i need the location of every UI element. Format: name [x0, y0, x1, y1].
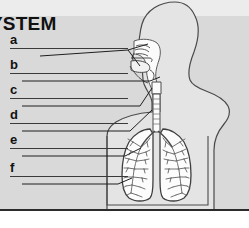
answer-line-d[interactable]	[10, 123, 128, 124]
question-letter-f: f	[10, 160, 14, 175]
trachea	[153, 94, 160, 132]
question-letter-c: c	[10, 82, 17, 97]
question-letter-e: e	[10, 132, 17, 147]
answer-line-c[interactable]	[10, 98, 128, 99]
respiratory-system-diagram	[0, 0, 249, 211]
answer-line-b[interactable]	[10, 73, 128, 74]
worksheet-panel: YSTEM	[0, 0, 249, 211]
question-letter-a: a	[10, 32, 17, 47]
question-letter-d: d	[10, 107, 18, 122]
answer-line-e[interactable]	[10, 148, 128, 149]
answer-line-f[interactable]	[10, 176, 128, 177]
worksheet-page: YSTEM	[0, 0, 249, 228]
leader-line-a-nasal	[40, 44, 148, 56]
answer-line-a[interactable]	[10, 48, 128, 49]
question-letter-b: b	[10, 57, 18, 72]
larynx	[152, 82, 161, 94]
footer-strip	[0, 213, 249, 228]
leader-line-c	[22, 88, 152, 106]
